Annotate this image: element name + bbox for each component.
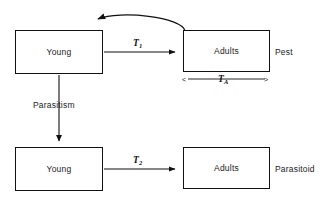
diagram-canvas: Young Adults Young Adults Pest Parasitoi… (0, 0, 323, 199)
node-parasitoid-young[interactable]: Young (15, 147, 103, 191)
subscript-A: A (224, 78, 228, 85)
subscript-1: 1 (139, 42, 142, 49)
node-label: Adults (214, 46, 239, 56)
edge-label-parasitoid-development: T2 (133, 155, 142, 166)
symbol-T: T (133, 38, 139, 48)
edge-pest-reproduction-feedback (98, 15, 185, 31)
group-label-parasitoid: Parasitoid (275, 164, 315, 174)
node-pest-adults[interactable]: Adults (183, 30, 270, 72)
group-label-pest: Pest (275, 47, 293, 57)
span-marker-right: > (264, 76, 268, 83)
edge-label-pest-development: T1 (133, 38, 142, 49)
span-marker-left: < (182, 76, 186, 83)
node-label: Young (47, 47, 72, 57)
node-label: Adults (214, 163, 239, 173)
node-pest-young[interactable]: Young (15, 30, 103, 74)
symbol-T: T (218, 74, 224, 84)
node-parasitoid-adults[interactable]: Adults (183, 147, 270, 189)
symbol-T: T (133, 155, 139, 165)
span-label-adult-lifespan: TA (218, 74, 228, 85)
node-label: Young (47, 164, 72, 174)
edge-label-parasitism: Parasitism (33, 100, 75, 110)
subscript-2: 2 (139, 159, 142, 166)
